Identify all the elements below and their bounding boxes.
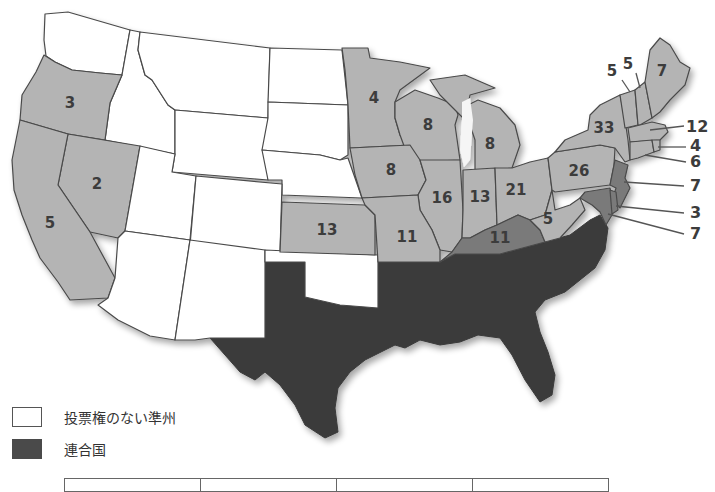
label-maryland: 7 <box>690 224 701 243</box>
label-wisconsin: 8 <box>423 116 433 134</box>
table-cell <box>473 479 609 492</box>
state-rhode-island <box>652 140 660 152</box>
label-california: 5 <box>45 214 55 232</box>
table-header-row <box>65 479 609 492</box>
label-maine: 7 <box>657 62 667 80</box>
label-ohio: 21 <box>506 181 527 199</box>
legend-item-confederacy: 連合国 <box>12 436 176 462</box>
state-connecticut <box>630 140 654 160</box>
label-kentucky: 11 <box>490 229 511 247</box>
label-minnesota: 4 <box>369 89 379 107</box>
state-new-mexico <box>175 240 265 340</box>
legend-swatch-confederacy <box>12 439 42 459</box>
bottom-table <box>64 478 609 492</box>
label-illinois: 16 <box>432 189 453 207</box>
state-wyoming <box>172 110 268 180</box>
legend-swatch-territory <box>12 407 42 427</box>
label-missouri: 11 <box>397 228 418 246</box>
label-new-jersey: 7 <box>690 176 701 195</box>
label-west-virginia: 5 <box>543 210 553 228</box>
label-pennsylvania: 26 <box>569 162 590 180</box>
label-oregon: 3 <box>65 94 75 112</box>
table-cell <box>337 479 473 492</box>
label-iowa: 8 <box>386 161 396 179</box>
state-arizona <box>98 231 190 340</box>
legend-label-confederacy: 連合国 <box>64 439 106 459</box>
label-connecticut: 6 <box>690 152 701 171</box>
label-kansas: 13 <box>317 221 338 239</box>
label-indiana: 13 <box>470 188 491 206</box>
table-cell <box>65 479 201 492</box>
table-cell <box>201 479 337 492</box>
state-north-dakota <box>268 48 348 105</box>
label-massachusetts: 12 <box>686 117 708 136</box>
legend: 投票権のない準州 連合国 <box>12 404 176 468</box>
state-maine <box>645 38 690 118</box>
label-nevada: 2 <box>92 175 102 193</box>
legend-item-territory: 投票権のない準州 <box>12 404 176 430</box>
label-new-york: 33 <box>594 119 615 137</box>
label-delaware: 3 <box>690 203 701 222</box>
label-new-hampshire: 5 <box>623 55 633 73</box>
label-michigan: 8 <box>485 135 495 153</box>
legend-label-territory: 投票権のない準州 <box>64 407 176 427</box>
label-vermont: 5 <box>607 62 617 80</box>
